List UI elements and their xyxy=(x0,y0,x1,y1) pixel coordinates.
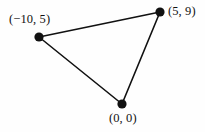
vertex-label-a: (−10, 5) xyxy=(9,13,50,26)
vertex-label-c: (0, 0) xyxy=(109,112,137,125)
triangle-edge-c-a xyxy=(39,37,122,104)
triangle-figure: (−10, 5) (5, 9) (0, 0) xyxy=(0,0,205,132)
vertex-point-b xyxy=(155,7,164,16)
triangle-edge-a-b xyxy=(39,12,160,37)
triangle-edge-b-c xyxy=(122,12,160,104)
vertex-label-b: (5, 9) xyxy=(168,5,196,18)
vertex-point-a xyxy=(34,32,43,41)
vertex-point-c xyxy=(117,99,126,108)
